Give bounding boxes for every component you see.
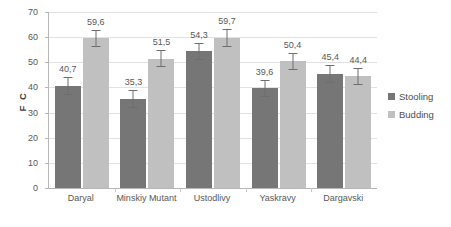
data-label: 59,7 [218,16,236,26]
y-axis-tick-label: 10 [28,158,38,168]
error-bar-stem [161,50,162,67]
error-bar [345,68,371,86]
y-axis-tick-label: 0 [33,183,38,193]
y-axis-tick-labels: 010203040506070 [0,0,44,227]
error-bar [280,53,306,70]
error-bar-cap-bottom [326,82,335,83]
bar [280,61,306,188]
error-bar [186,43,212,61]
data-label: 54,3 [190,30,208,40]
x-axis-category-label: Yaskravy [243,193,313,205]
data-label: 45,4 [321,52,339,62]
error-bar-stem [133,90,134,108]
bar [317,74,343,188]
y-axis-tick-label: 70 [28,7,38,17]
error-bar-stem [67,77,68,95]
error-bar-cap-bottom [354,84,363,85]
legend-item[interactable]: Stooling [388,91,450,102]
error-bar-stem [227,29,228,47]
error-bar-cap-top [195,43,204,44]
error-bar-cap-bottom [195,59,204,60]
bar [252,88,278,188]
error-bar [55,77,81,95]
y-axis-tick-label: 20 [28,133,38,143]
data-label: 44,4 [349,55,367,65]
plot-area: 40,759,635,351,554,359,739,650,445,444,4 [48,12,377,189]
bar [186,51,212,188]
error-bar-cap-top [157,50,166,51]
data-label: 40,7 [59,64,77,74]
error-bar-cap-top [91,30,100,31]
y-axis-tick-label: 60 [28,32,38,42]
legend-item[interactable]: Budding [388,109,450,120]
error-bar [120,90,146,108]
error-bar-cap-bottom [63,94,72,95]
x-axis-category-labels: DaryalMinskiy MutantUstodlivyYaskravyDar… [48,193,376,227]
error-bar-stem [199,43,200,61]
data-label: 59,6 [87,17,105,27]
bar [345,76,371,188]
bar [83,38,109,188]
data-label: 35,3 [125,77,143,87]
legend-label: Stooling [399,91,433,102]
bar [148,59,174,188]
bar [214,38,240,188]
error-bar-cap-top [129,90,138,91]
error-bar-cap-top [63,77,72,78]
y-axis-tick-label: 40 [28,82,38,92]
error-bar-cap-top [326,65,335,66]
error-bar-cap-bottom [91,46,100,47]
bar [120,99,146,188]
error-bar-cap-bottom [260,96,269,97]
bars-layer: 40,759,635,351,554,359,739,650,445,444,4 [49,12,377,188]
x-axis-tick-mark [246,188,247,192]
error-bar-stem [95,30,96,47]
error-bar-cap-top [260,80,269,81]
x-axis-tick-mark [311,188,312,192]
error-bar-cap-top [354,68,363,69]
x-axis-category-label: Minskiy Mutant [111,193,181,205]
x-axis-category-label: Dargavski [308,193,378,205]
x-axis-category-label: Daryal [46,193,116,205]
error-bar [214,29,240,47]
error-bar [317,65,343,83]
error-bar-stem [330,65,331,83]
data-label: 50,4 [284,40,302,50]
bar-chart: F C 010203040506070 40,759,635,351,554,3… [0,0,451,227]
error-bar-stem [358,68,359,86]
error-bar-stem [292,53,293,70]
x-axis-tick-mark [115,188,116,192]
square-marker-light-icon [388,111,395,118]
error-bar-cap-bottom [288,69,297,70]
y-axis-tick-label: 30 [28,108,38,118]
error-bar-stem [264,80,265,97]
legend-label: Budding [399,109,434,120]
x-axis-category-label: Ustodlivy [177,193,247,205]
chart-legend: StoolingBudding [388,91,450,127]
error-bar [252,80,278,97]
error-bar [148,50,174,67]
y-axis-tick-label: 50 [28,57,38,67]
error-bar [83,30,109,47]
bar [55,86,81,188]
error-bar-cap-bottom [157,66,166,67]
error-bar-cap-top [288,53,297,54]
error-bar-cap-bottom [223,46,232,47]
square-marker-dark-icon [388,93,395,100]
x-axis-tick-mark [180,188,181,192]
y-axis-tick-mark [45,188,49,189]
data-label: 39,6 [256,67,274,77]
error-bar-cap-bottom [129,107,138,108]
data-label: 51,5 [153,37,171,47]
error-bar-cap-top [223,29,232,30]
